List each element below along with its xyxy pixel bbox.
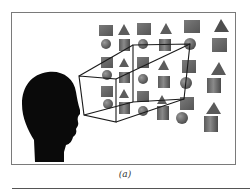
sphere-icon xyxy=(101,39,111,49)
cube-icon xyxy=(99,25,113,36)
sphere-icon xyxy=(138,74,148,84)
cube-icon xyxy=(212,38,227,52)
object-array xyxy=(99,19,229,132)
pyramid-icon xyxy=(118,24,130,35)
pyramid-icon xyxy=(158,60,169,70)
cube-icon xyxy=(182,60,196,73)
pyramid-icon xyxy=(160,23,172,34)
pyramid-icon xyxy=(214,19,229,32)
section-rule xyxy=(12,188,250,189)
cube-icon xyxy=(137,91,149,102)
pyramid-icon xyxy=(119,58,129,67)
figure-illustration xyxy=(0,0,250,191)
pyramid-icon xyxy=(157,95,167,104)
cube-icon xyxy=(101,86,113,97)
cylinder-icon xyxy=(204,116,218,132)
pyramid-icon xyxy=(119,89,129,98)
cone-icon xyxy=(206,102,221,114)
cylinder-icon xyxy=(119,39,130,51)
view-frustum-wireframe xyxy=(79,44,190,122)
cone-icon xyxy=(211,62,226,75)
sphere-icon xyxy=(176,112,188,124)
cube-icon xyxy=(137,23,151,35)
head-silhouette xyxy=(22,72,80,162)
cylinder-icon xyxy=(158,76,170,88)
figure-caption: (a) xyxy=(0,169,250,179)
sphere-icon xyxy=(138,39,148,49)
cube-icon xyxy=(184,20,200,33)
cylinder-icon xyxy=(207,78,221,93)
